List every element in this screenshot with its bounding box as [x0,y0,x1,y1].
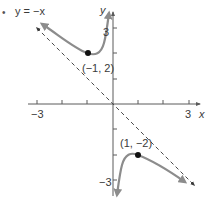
y-axis-label: y [99,4,107,16]
x-axis-label: x [198,108,205,120]
point-local-min [85,50,91,56]
y-tick-label-neg3: −3 [99,176,112,188]
y-tick-label-3: 3 [103,26,109,38]
point-label-right: (1, −2) [120,137,152,149]
asymptote-label: y = −x [15,5,45,17]
point-label-left: (−1, 2) [82,62,114,74]
right-branch-curve [117,154,185,195]
x-tick-label-3: 3 [185,108,191,120]
x-tick-label-neg3: −3 [31,108,44,120]
graph: y = −x y x 3 −3 −3 3 (−1, 2) (1, −2) [0,0,211,203]
asymptote-line [37,28,194,185]
left-branch-curve [42,13,109,54]
point-local-max [135,152,141,158]
